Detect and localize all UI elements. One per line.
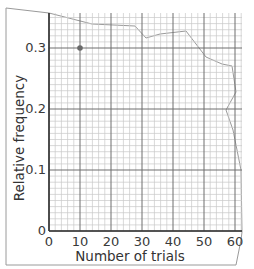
x-tick-label: 30 <box>134 234 151 249</box>
x-tick-label: 20 <box>103 234 120 249</box>
x-tick-label: 60 <box>227 234 244 249</box>
x-tick-label: 10 <box>72 234 89 249</box>
chart-svg: 0102030405060 00.10.20.3 Number of trial… <box>0 0 254 269</box>
x-axis-label: Number of trials <box>75 248 184 264</box>
x-tick-label: 40 <box>165 234 182 249</box>
y-axis-label: Relative frequency <box>11 75 27 201</box>
y-tick-label: 0.2 <box>25 101 46 116</box>
y-tick-label: 0.3 <box>25 40 46 55</box>
x-tick-label: 50 <box>196 234 213 249</box>
x-tick-label: 0 <box>45 234 53 249</box>
y-tick-label: 0.1 <box>25 162 46 177</box>
y-tick-label: 0 <box>38 223 46 238</box>
data-point <box>77 45 83 51</box>
data-points <box>77 45 83 51</box>
